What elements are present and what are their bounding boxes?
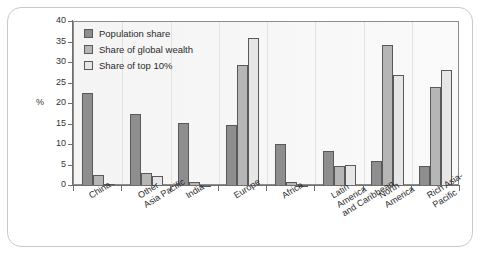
bar — [441, 70, 452, 186]
y-axis-tick — [68, 83, 73, 84]
x-axis-tick — [266, 186, 267, 191]
legend-swatch-icon — [84, 45, 93, 54]
bar — [430, 87, 441, 186]
y-axis-tick-label: 15 — [44, 119, 66, 128]
y-axis-tick-label: 0 — [44, 180, 66, 189]
bar — [226, 125, 237, 187]
legend-swatch-icon — [84, 29, 93, 38]
y-axis-tick-label: 10 — [44, 139, 66, 148]
legend-item-label: Share of top 10% — [99, 61, 172, 71]
y-axis-tick-labels: 0510152025303540 — [40, 0, 66, 271]
figure-container: 0510152025303540 % ChinaOther Asia Pacif… — [0, 0, 492, 271]
y-axis-tick-label: 25 — [44, 78, 66, 87]
category-gridline — [364, 22, 365, 184]
legend-item: Share of top 10% — [84, 60, 193, 71]
y-axis-tick-label: 30 — [44, 57, 66, 66]
legend-item-label: Share of global wealth — [99, 45, 193, 55]
bar — [82, 93, 93, 186]
bar — [419, 166, 430, 187]
y-axis-tick — [68, 124, 73, 125]
category-gridline — [412, 22, 413, 184]
legend-swatch-icon — [84, 61, 93, 70]
y-axis-tick-label: 20 — [44, 98, 66, 107]
y-axis-tick — [68, 103, 73, 104]
y-axis-tick — [68, 144, 73, 145]
x-axis-tick — [314, 186, 315, 191]
legend-item: Population share — [84, 28, 193, 39]
bar — [275, 144, 286, 186]
y-axis-tick-label: 35 — [44, 37, 66, 46]
figure-caption — [8, 262, 478, 271]
x-axis-tick — [73, 186, 74, 191]
y-axis-tick — [68, 21, 73, 22]
y-axis-tick — [68, 42, 73, 43]
bar — [130, 114, 141, 186]
y-axis-unit-label: % — [36, 97, 44, 107]
bar — [323, 151, 334, 186]
bar — [237, 65, 248, 186]
category-gridline — [315, 22, 316, 184]
y-axis-tick-label: 40 — [44, 16, 66, 25]
x-axis-tick — [218, 186, 219, 191]
y-axis-tick — [68, 165, 73, 166]
bar — [382, 45, 393, 186]
x-axis-tick — [121, 186, 122, 191]
y-axis-tick-label: 5 — [44, 160, 66, 169]
y-axis-tick — [68, 62, 73, 63]
category-gridline — [219, 22, 220, 184]
chart-legend: Population shareShare of global wealthSh… — [84, 28, 193, 71]
legend-item: Share of global wealth — [84, 44, 193, 55]
category-gridline — [267, 22, 268, 184]
legend-item-label: Population share — [99, 29, 170, 39]
bar — [248, 38, 259, 186]
bar — [393, 75, 404, 186]
